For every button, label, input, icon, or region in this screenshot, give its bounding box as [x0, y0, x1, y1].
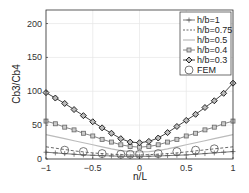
legend-label: h/b=0.3	[197, 55, 227, 65]
x-tick-label: −1	[41, 163, 51, 173]
legend-label: h/b=1	[197, 15, 220, 25]
y-tick-label: 100	[27, 86, 42, 96]
legend-label: h/b=0.5	[197, 35, 227, 45]
x-tick-label: 1	[230, 163, 235, 173]
y-tick-label: 200	[27, 19, 42, 29]
x-tick-label: −0.5	[84, 163, 102, 173]
y-tick-label: 150	[27, 52, 42, 62]
x-tick-label: 0.5	[180, 163, 193, 173]
legend-label: h/b=0.75	[197, 25, 232, 35]
legend-label: h/b=0.4	[197, 45, 227, 55]
x-axis-label: n/L	[133, 171, 147, 182]
y-tick-label: 50	[32, 120, 42, 130]
y-axis-label: Cb3/Cb4	[11, 64, 22, 104]
y-tick-label: 0	[37, 154, 42, 164]
legend-label: FEM	[197, 65, 216, 75]
line-chart: −1−0.500.51050100150200 n/L Cb3/Cb4 h/b=…	[0, 0, 249, 193]
legend: h/b=1h/b=0.75h/b=0.5h/b=0.4h/b=0.3FEM	[180, 12, 232, 75]
